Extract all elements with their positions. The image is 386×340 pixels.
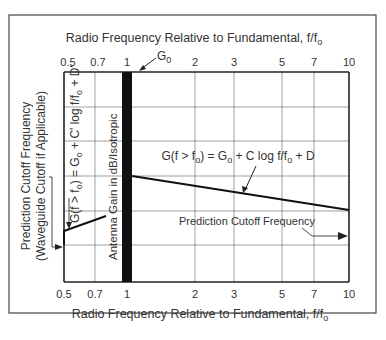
cutoff-label-left-line1: Prediction Cutoff Frequency [19, 102, 33, 251]
fundamental-bar [122, 72, 132, 282]
gain-curve-above [132, 176, 349, 210]
svg-text:5: 5 [279, 288, 285, 300]
bottom-tick-labels: 0.5 0.7 1 2 3 5 7 10 [56, 288, 355, 300]
svg-text:0.7: 0.7 [87, 288, 102, 300]
svg-text:2: 2 [192, 288, 198, 300]
y-axis-label: Antenna Gain in dB/Isotropic [107, 113, 119, 260]
top-tick-5: 5 [279, 56, 285, 68]
top-tick-3: 3 [231, 56, 237, 68]
formula-below: G(f > fo) = Go + C' log f/fo + D' [68, 65, 84, 223]
top-tick-0.7: 0.7 [90, 56, 105, 68]
svg-text:1: 1 [124, 288, 130, 300]
top-tick-7: 7 [311, 56, 317, 68]
svg-text:0.5: 0.5 [56, 288, 71, 300]
top-axis-label: Radio Frequency Relative to Fundamental,… [66, 31, 323, 47]
g0-label: G0 [157, 49, 171, 65]
svg-text:3: 3 [231, 288, 237, 300]
top-tick-10: 10 [343, 56, 355, 68]
top-tick-labels: 0.5 0.7 1 2 3 5 7 10 [60, 56, 355, 68]
cutoff-label-left-line2: (Waveguide Cutoff if Applicable) [34, 91, 48, 261]
svg-text:10: 10 [343, 288, 355, 300]
top-tick-2: 2 [192, 56, 198, 68]
bottom-axis-label: Radio Frequency Relative to Fundamental,… [72, 307, 329, 323]
top-tick-1: 1 [124, 56, 130, 68]
chart-figure: Radio Frequency Relative to Fundamental,… [0, 0, 386, 340]
formula-above: G(f > fo) = Go + C log f/fo + D [161, 149, 314, 165]
cutoff-label-right: Prediction Cutoff Frequency [179, 215, 316, 227]
svg-text:7: 7 [311, 288, 317, 300]
